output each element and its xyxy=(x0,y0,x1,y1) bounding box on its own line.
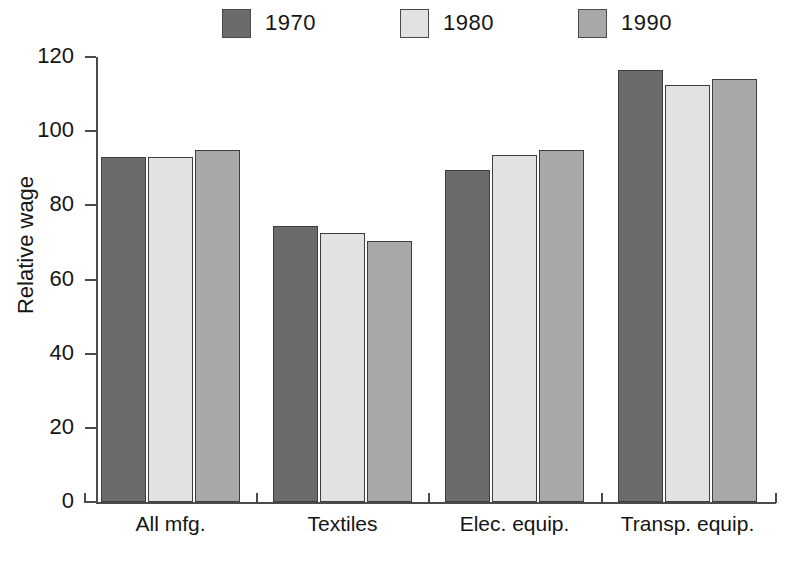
y-tick-mark xyxy=(85,56,96,58)
bar-elec-equip--1980 xyxy=(492,155,537,502)
bar-chart: 197019801990 Relative wage 0204060801001… xyxy=(0,0,798,565)
y-tick-mark xyxy=(85,279,96,281)
bar-textiles-1980 xyxy=(320,233,365,502)
x-tick-mark xyxy=(775,493,777,503)
y-tick-mark xyxy=(85,204,96,206)
x-axis-line xyxy=(96,502,776,504)
y-tick-label: 40 xyxy=(10,340,74,366)
y-tick-mark xyxy=(85,130,96,132)
bar-transp-equip--1990 xyxy=(712,79,757,502)
y-axis-title: Relative wage xyxy=(13,155,39,335)
bar-transp-equip--1980 xyxy=(665,85,710,502)
bar-elec-equip--1990 xyxy=(539,150,584,502)
x-tick-mark xyxy=(256,493,258,503)
x-tick-mark xyxy=(428,493,430,503)
y-tick-mark xyxy=(85,353,96,355)
y-tick-label: 20 xyxy=(10,414,74,440)
x-tick-mark xyxy=(84,493,86,503)
bar-textiles-1970 xyxy=(273,226,318,502)
y-tick-label: 120 xyxy=(10,43,74,69)
bar-all-mfg--1980 xyxy=(148,157,193,502)
y-tick-mark xyxy=(85,501,96,503)
y-tick-label: 0 xyxy=(10,488,74,514)
plot-area: Relative wage 020406080100120 All mfg.Te… xyxy=(0,0,798,565)
y-tick-label: 100 xyxy=(10,117,74,143)
x-category-label: Transp. equip. xyxy=(578,512,797,536)
y-tick-label: 80 xyxy=(10,191,74,217)
bar-textiles-1990 xyxy=(367,241,412,502)
x-tick-mark xyxy=(601,493,603,503)
bar-transp-equip--1970 xyxy=(618,70,663,502)
y-axis-line xyxy=(96,57,98,503)
y-tick-label: 60 xyxy=(10,266,74,292)
bar-elec-equip--1970 xyxy=(445,170,490,502)
bar-all-mfg--1990 xyxy=(195,150,240,502)
y-tick-mark xyxy=(85,427,96,429)
bar-all-mfg--1970 xyxy=(101,157,146,502)
